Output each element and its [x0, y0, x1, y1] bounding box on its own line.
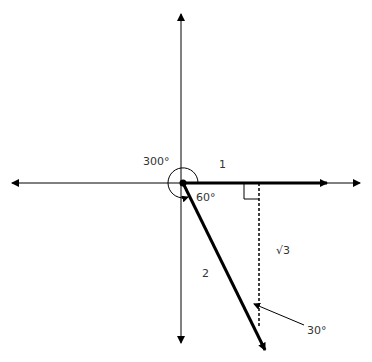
label-side-1: 1 — [219, 158, 226, 171]
diagram-canvas: 300° 60° 1 2 √3 30° — [0, 0, 372, 362]
label-side-sqrt3: √3 — [276, 244, 290, 257]
hypotenuse-line — [183, 183, 265, 350]
label-side-2: 2 — [202, 267, 209, 280]
label-300-degrees: 300° — [143, 155, 170, 168]
label-30-degrees: 30° — [307, 324, 327, 337]
right-angle-marker — [244, 183, 259, 199]
label-60-degrees: 60° — [196, 191, 216, 204]
angle-30-leader — [254, 304, 304, 325]
origin-point — [180, 180, 187, 187]
